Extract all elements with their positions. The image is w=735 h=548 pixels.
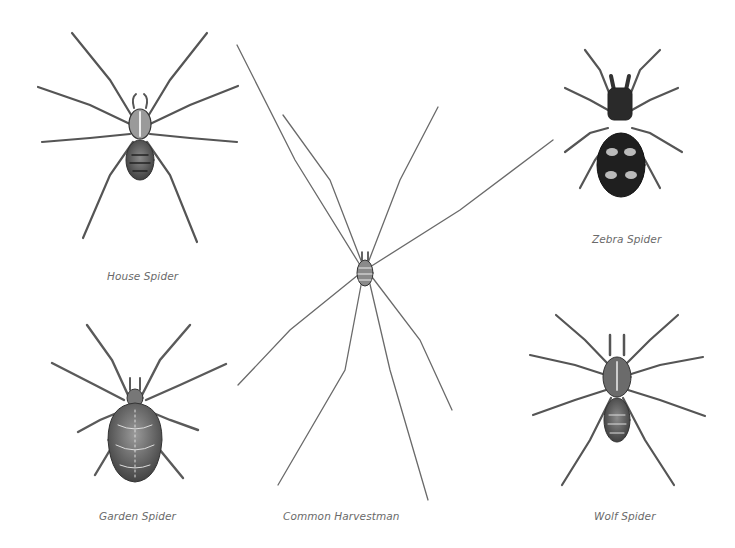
zebra-spider-illustration — [565, 50, 682, 197]
harvestman-label: Common Harvestman — [283, 510, 400, 522]
spider-illustration-plate: House Spider Zebra Spider Common Harvest… — [0, 0, 735, 548]
garden-spider-illustration — [52, 325, 226, 482]
zebra-spider-label: Zebra Spider — [592, 233, 661, 245]
wolf-spider-label: Wolf Spider — [594, 510, 656, 522]
house-spider-illustration — [38, 33, 238, 242]
house-spider-label: House Spider — [107, 270, 178, 282]
garden-spider-label: Garden Spider — [99, 510, 176, 522]
harvestman-illustration — [237, 45, 553, 500]
wolf-spider-illustration — [530, 315, 705, 485]
